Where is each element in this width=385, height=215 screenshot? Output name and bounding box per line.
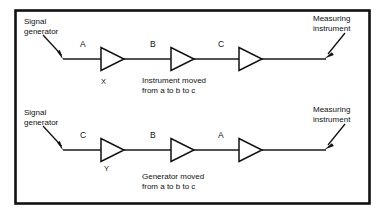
top-caption-line1: Instrument moved xyxy=(142,76,206,86)
bottom-sink-arrow-shaft xyxy=(328,124,345,145)
top-block-label-c: C xyxy=(218,40,224,50)
top-amplifier-3 xyxy=(239,48,262,71)
top-source-label-line2: generator xyxy=(24,27,58,37)
top-sink-label-line1: Measuring xyxy=(313,14,350,24)
bottom-amplifier-3 xyxy=(239,139,262,162)
top-source-arrow-head xyxy=(57,50,63,59)
top-marker-x: X xyxy=(101,77,106,87)
bottom-source-arrow-head xyxy=(57,141,63,150)
top-amplifier-1 xyxy=(101,48,124,71)
top-sink-arrow-shaft xyxy=(328,33,345,54)
bottom-block-label-b: B xyxy=(150,131,156,141)
top-source-label-line1: Signal xyxy=(24,17,46,27)
bottom-source-label-line2: generator xyxy=(24,118,58,128)
bottom-marker-y: Y xyxy=(104,164,109,174)
top-block-label-a: A xyxy=(80,40,86,50)
bottom-source-label-line1: Signal xyxy=(24,108,46,118)
bottom-caption-line1: Generator moved xyxy=(142,172,204,182)
top-caption-line2: from a to b to c xyxy=(142,86,195,96)
bottom-block-label-c: C xyxy=(80,131,86,141)
bottom-sink-label-line1: Measuring xyxy=(313,105,350,115)
bottom-block-label-a: A xyxy=(218,131,224,141)
figure-container: Signal generator Measuring instrument A … xyxy=(0,0,385,215)
bottom-sink-label-line2: instrument xyxy=(313,115,350,125)
top-amplifier-2 xyxy=(171,48,194,71)
top-sink-label-line2: instrument xyxy=(313,24,350,34)
top-block-label-b: B xyxy=(150,40,156,50)
bottom-amplifier-2 xyxy=(171,139,194,162)
bottom-caption-line2: from a to b to c xyxy=(142,182,195,192)
bottom-amplifier-1 xyxy=(101,139,124,162)
